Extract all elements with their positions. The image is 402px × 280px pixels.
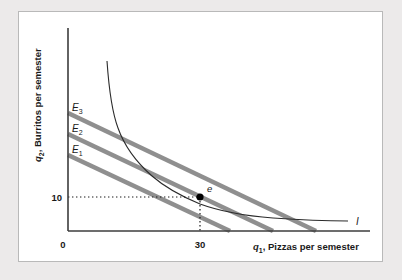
y-tick-label-10: 10 <box>51 192 62 203</box>
chart-panel: e E3 E2 E1 I 0 30 10 q1, Pizzas per seme… <box>18 11 383 262</box>
x-axis-title: q1, Pizzas per semester <box>253 241 359 254</box>
indifference-curve-label: I <box>356 216 359 227</box>
x-axis-title-text: , Pizzas per semester <box>263 241 359 252</box>
indifference-curve-chart: e E3 E2 E1 I 0 30 10 q1, Pizzas per seme… <box>19 12 384 263</box>
y-axis-title: q2, Burritos per semester <box>32 48 45 162</box>
indifference-curve <box>107 61 348 221</box>
budget-line-e1-label: E1 <box>72 144 83 157</box>
figure-root: e E3 E2 E1 I 0 30 10 q1, Pizzas per seme… <box>0 0 402 280</box>
budget-line-e2-label: E2 <box>72 123 83 136</box>
budget-line-e1-label-subscript: 1 <box>79 150 83 157</box>
equilibrium-point-marker <box>196 193 203 200</box>
y-axis-title-text: , Burritos per semester <box>32 48 43 152</box>
budget-line-e3-label: E3 <box>72 102 83 115</box>
budget-line-e3-label-subscript: 3 <box>79 108 83 115</box>
equilibrium-point-label: e <box>207 183 212 194</box>
budget-line-e2-label-subscript: 2 <box>79 129 83 136</box>
budget-line-e1 <box>68 155 230 231</box>
budget-line-e2 <box>68 134 273 231</box>
x-tick-label-30: 30 <box>195 239 206 250</box>
x-tick-label-0: 0 <box>60 239 65 250</box>
